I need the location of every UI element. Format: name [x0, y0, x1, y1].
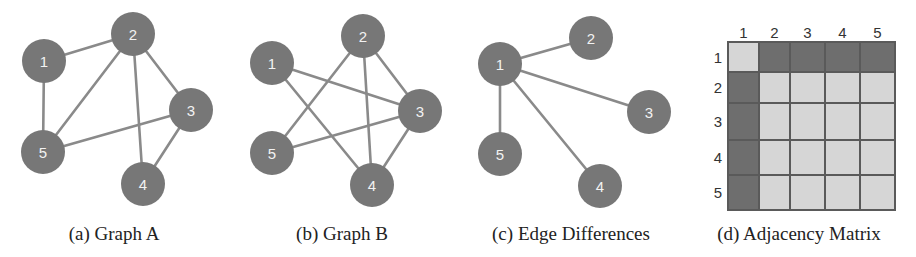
graph-panels: 12345(a) Graph A12345(b) Graph B12345(c)… [21, 12, 671, 245]
matrix-cell-5-5 [860, 175, 895, 210]
figure-canvas: 12345(a) Graph A12345(b) Graph B12345(c)… [0, 0, 916, 257]
matrix-cell-5-1 [728, 175, 759, 210]
column-label: 5 [873, 24, 881, 41]
panel-caption: (b) Graph B [296, 223, 388, 245]
edges [272, 36, 420, 185]
node-2: 2 [569, 16, 613, 60]
node-label: 1 [40, 53, 48, 70]
edge-1-3 [272, 63, 420, 111]
matrix-cell-2-2 [759, 72, 790, 103]
node-5: 5 [250, 131, 294, 175]
matrix-cell-4-2 [759, 140, 790, 175]
column-label: 2 [770, 24, 778, 41]
column-label: 3 [803, 24, 811, 41]
graph-panel-c: 12345(c) Edge Differences [478, 16, 671, 245]
node-label: 1 [268, 55, 276, 72]
node-1: 1 [22, 39, 66, 83]
matrix-cell-3-4 [825, 103, 860, 140]
matrix-cell-3-3 [790, 103, 825, 140]
matrix-cell-4-1 [728, 140, 759, 175]
node-label: 3 [416, 103, 424, 120]
node-5: 5 [21, 130, 65, 174]
matrix-cell-2-3 [790, 72, 825, 103]
row-label: 5 [714, 184, 722, 201]
matrix-cell-3-5 [860, 103, 895, 140]
matrix-cell-4-5 [860, 140, 895, 175]
panel-caption: (a) Graph A [69, 223, 160, 245]
node-4: 4 [578, 164, 622, 208]
graph-panel-a: 12345(a) Graph A [21, 12, 213, 245]
matrix-cell-2-1 [728, 72, 759, 103]
matrix-cell-3-1 [728, 103, 759, 140]
matrix-cell-1-4 [825, 42, 860, 72]
node-label: 5 [39, 144, 47, 161]
matrix-cell-1-2 [759, 42, 790, 72]
edges [500, 38, 649, 186]
matrix-cell-5-3 [790, 175, 825, 210]
matrix-cell-2-4 [825, 72, 860, 103]
node-label: 3 [645, 104, 653, 121]
matrix-cell-5-2 [759, 175, 790, 210]
column-label: 4 [838, 24, 846, 41]
node-4: 4 [121, 162, 165, 206]
matrix-cell-2-5 [860, 72, 895, 103]
node-4: 4 [350, 163, 394, 207]
node-label: 2 [359, 28, 367, 45]
matrix-cell-1-1 [728, 42, 759, 72]
panel-caption: (d) Adjacency Matrix [717, 223, 881, 245]
node-2: 2 [341, 14, 385, 58]
edge-1-3 [500, 64, 649, 112]
node-2: 2 [111, 12, 155, 56]
edge-2-4 [133, 34, 143, 184]
node-label: 5 [268, 145, 276, 162]
node-label: 2 [587, 30, 595, 47]
graph-panel-b: 12345(b) Graph B [250, 14, 442, 245]
matrix-cell-1-3 [790, 42, 825, 72]
node-3: 3 [398, 89, 442, 133]
node-5: 5 [478, 132, 522, 176]
node-label: 5 [496, 146, 504, 163]
node-label: 4 [368, 177, 376, 194]
matrix-cell-5-4 [825, 175, 860, 210]
node-label: 2 [129, 26, 137, 43]
node-label: 1 [496, 56, 504, 73]
row-label: 1 [714, 49, 722, 66]
node-3: 3 [169, 88, 213, 132]
row-label: 3 [714, 113, 722, 130]
matrix-cell-4-3 [790, 140, 825, 175]
adjacency-matrix-panel: 1234512345(d) Adjacency Matrix [714, 24, 895, 246]
node-3: 3 [627, 90, 671, 134]
edge-2-4 [363, 36, 372, 185]
node-label: 4 [596, 178, 604, 195]
row-label: 4 [714, 149, 722, 166]
panel-caption: (c) Edge Differences [492, 223, 650, 245]
node-1: 1 [250, 41, 294, 85]
node-label: 4 [139, 176, 147, 193]
matrix-cell-3-2 [759, 103, 790, 140]
node-1: 1 [478, 42, 522, 86]
column-label: 1 [739, 24, 747, 41]
row-label: 2 [714, 79, 722, 96]
node-label: 3 [187, 102, 195, 119]
matrix-cell-1-5 [860, 42, 895, 72]
matrix-cells [728, 42, 895, 210]
matrix-cell-4-4 [825, 140, 860, 175]
